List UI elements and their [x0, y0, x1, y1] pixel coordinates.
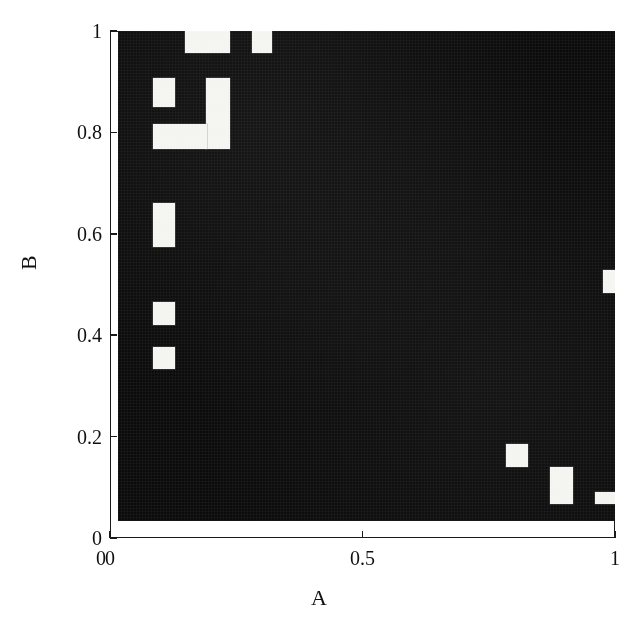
y-tick-label: 0.8	[42, 122, 102, 142]
y-tick-mark	[110, 334, 117, 336]
x-tick-label: 1	[575, 548, 638, 568]
x-tick-label: 0	[70, 548, 150, 568]
y-tick-label: 0	[42, 528, 102, 548]
y-tick-mark	[110, 537, 117, 539]
y-tick-mark	[110, 30, 117, 32]
heatmap-cell	[153, 124, 208, 149]
heatmap-cell	[506, 444, 528, 468]
x-tick-mark	[109, 531, 111, 538]
heatmap-cell	[153, 78, 175, 107]
y-tick-label: 0.2	[42, 427, 102, 447]
y-tick-label: 0.6	[42, 224, 102, 244]
y-tick-mark	[110, 233, 117, 235]
heatmap-raster	[118, 31, 615, 521]
x-tick-label: 0.5	[323, 548, 403, 568]
y-tick-label: 0.4	[42, 325, 102, 345]
heatmap-cell	[153, 203, 175, 247]
y-axis-label: B	[16, 255, 42, 270]
heatmap-cell	[252, 31, 272, 53]
heatmap-cell	[603, 270, 615, 294]
heatmap-cell	[185, 31, 230, 53]
heatmap-cell	[206, 78, 229, 149]
origin-zero-label: 0	[96, 548, 106, 568]
x-axis-label: A	[0, 585, 638, 611]
heatmap-cell	[153, 302, 175, 325]
y-tick-mark	[110, 132, 117, 134]
y-tick-mark	[110, 436, 117, 438]
x-tick-mark	[614, 531, 616, 538]
heatmap-cell	[550, 467, 572, 504]
y-tick-label: 1	[42, 21, 102, 41]
heatmap-cell	[153, 347, 175, 369]
x-tick-mark	[362, 531, 364, 538]
heatmap-cell	[595, 492, 615, 504]
figure-canvas: 00.20.40.60.81 00.510 A B	[0, 0, 638, 627]
